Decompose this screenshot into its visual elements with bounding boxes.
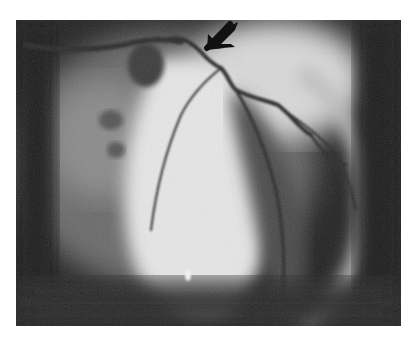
angiogram-image: Grayscale X-ray angiogram of the heart s… xyxy=(16,20,401,326)
angiogram-illustration xyxy=(16,20,401,326)
